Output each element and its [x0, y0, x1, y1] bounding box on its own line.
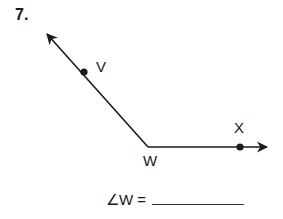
point-x-dot: [236, 143, 243, 150]
angle-diagram: [0, 0, 283, 219]
point-v-dot: [80, 68, 87, 75]
answer-blank[interactable]: [152, 190, 244, 205]
vertex-w-label: W: [143, 152, 157, 169]
point-v-label: V: [96, 58, 106, 75]
point-x-label: X: [234, 119, 244, 136]
answer-prompt: ∠W =: [106, 191, 146, 209]
answer-row: ∠W =: [106, 190, 244, 209]
ray-wv: [47, 34, 148, 147]
